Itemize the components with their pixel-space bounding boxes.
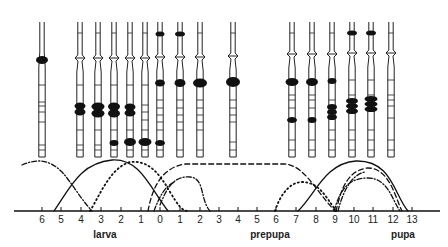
tick-label: 1 xyxy=(138,214,144,225)
chromosome xyxy=(226,22,240,157)
tick-label: 4 xyxy=(235,214,241,225)
time-axis: 654321012345678910111213larvaprepupapupa xyxy=(14,207,440,240)
tick-label: 11 xyxy=(368,214,379,225)
tick-label: 1 xyxy=(177,214,183,225)
tick-label: 6 xyxy=(273,214,279,225)
tick-label: 2 xyxy=(197,214,203,225)
chromosome-puff xyxy=(287,117,297,123)
chromosome-puff xyxy=(366,31,376,36)
stage-label-larva: larva xyxy=(93,229,117,240)
chromosome xyxy=(386,22,396,157)
stage-label-pupa: pupa xyxy=(391,229,415,240)
chromosome-puff xyxy=(156,32,165,37)
tick-label: 9 xyxy=(332,214,338,225)
chromosome xyxy=(75,22,86,157)
chromosome xyxy=(193,22,207,157)
activity-curves xyxy=(22,160,408,211)
chromosome-puff xyxy=(308,117,317,123)
chromosome-puff xyxy=(175,79,186,87)
chromosome-puff xyxy=(346,108,358,114)
tick-label: 6 xyxy=(39,214,45,225)
chromosome-puff xyxy=(36,56,48,64)
chromosome xyxy=(286,22,299,157)
chromosome-puff xyxy=(125,109,136,116)
chromosome xyxy=(346,22,358,157)
dash-dot-curve-prepupal xyxy=(160,177,210,211)
dotted-curve-prepupal xyxy=(275,182,336,211)
chromosome-puff xyxy=(306,78,318,86)
chromosome xyxy=(365,22,378,157)
chromosome xyxy=(139,22,152,157)
chromosome xyxy=(108,22,120,157)
chromosome-puff xyxy=(155,80,165,87)
puffing-diagram: 654321012345678910111213larvaprepupapupa xyxy=(0,0,448,247)
tick-label: 4 xyxy=(78,214,84,225)
chromosome xyxy=(36,22,48,157)
chromosome-puff xyxy=(226,77,240,87)
chromosome xyxy=(92,22,105,157)
chromosome-puff xyxy=(108,109,120,117)
chromosome xyxy=(124,22,136,157)
chromosome-puff xyxy=(175,32,185,37)
tick-label: 3 xyxy=(98,214,104,225)
stage-label-prepupa: prepupa xyxy=(250,229,290,240)
chromosome-puff xyxy=(327,114,337,120)
chromosome-puff xyxy=(124,138,136,146)
chromosome-puff xyxy=(155,140,165,146)
solid-curve-larval xyxy=(54,160,168,211)
chromosome xyxy=(155,22,165,157)
dashed-curve-long xyxy=(148,164,335,211)
tick-label: 3 xyxy=(216,214,222,225)
tick-label: 5 xyxy=(58,214,64,225)
dotted-curve-larval xyxy=(90,162,188,211)
chromosome-puff xyxy=(110,140,119,146)
chromosome xyxy=(306,22,318,157)
chromosome-puff xyxy=(92,109,105,117)
chromosome-puff xyxy=(328,78,337,84)
tick-label: 0 xyxy=(157,214,163,225)
chromosome-puff xyxy=(365,106,378,112)
tick-label: 8 xyxy=(313,214,319,225)
tick-label: 7 xyxy=(293,214,299,225)
chromosome-puff xyxy=(286,78,299,86)
tick-label: 12 xyxy=(387,214,399,225)
chromosome-puff xyxy=(347,31,357,36)
tick-label: 13 xyxy=(406,214,418,225)
chromosome-group xyxy=(36,22,396,157)
chromosome-puff xyxy=(139,138,152,146)
chromosome xyxy=(175,22,186,157)
chromosome xyxy=(327,22,337,157)
dash-dot-curve-larval-early xyxy=(22,161,92,211)
tick-label: 5 xyxy=(254,214,260,225)
chromosome-puff xyxy=(193,79,207,88)
tick-label: 2 xyxy=(118,214,124,225)
tick-label: 10 xyxy=(348,214,360,225)
chromosome-puff xyxy=(75,108,86,115)
